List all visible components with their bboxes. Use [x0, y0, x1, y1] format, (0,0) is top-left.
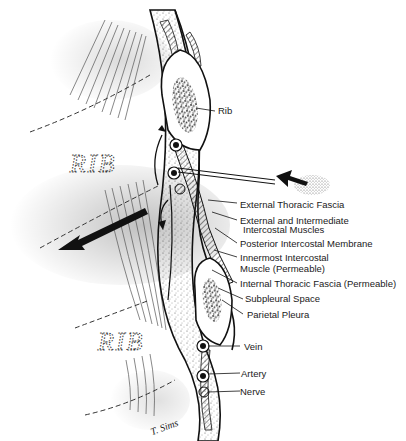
label-internal-thoracic-fascia: Internal Thoracic Fascia (Permeable): [240, 278, 396, 289]
label-external-intermediate-intercostal-line2: Intercostal Muscles: [243, 224, 325, 235]
label-nerve: Nerve: [240, 386, 265, 397]
nerve-circle: [199, 387, 209, 397]
label-vein: Vein: [244, 341, 263, 352]
label-subpleural-space: Subpleural Space: [245, 293, 320, 304]
lower-rib-background-label: RIB: [97, 327, 144, 356]
label-parietal-pleura: Parietal Pleura: [247, 309, 310, 320]
label-rib: Rib: [218, 105, 232, 116]
label-innermost-intercostal-line2: Muscle (Permeable): [240, 263, 325, 274]
label-posterior-intercostal-membrane: Posterior Intercostal Membrane: [240, 238, 373, 249]
label-innermost-intercostal-line1: Innermost Intercostal: [240, 252, 329, 263]
upper-rib-background-label: RIB: [69, 149, 116, 178]
label-artery: Artery: [241, 368, 267, 379]
label-external-thoracic-fascia: External Thoracic Fascia: [240, 199, 345, 210]
intercostal-diagram: RIB RIB: [0, 0, 406, 441]
